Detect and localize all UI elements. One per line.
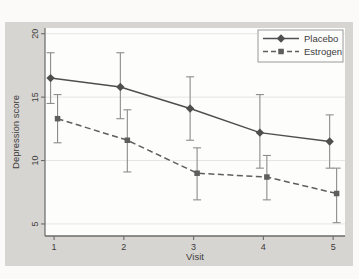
y-tick-label: 5 [30, 221, 40, 226]
legend: PlaceboEstrogen [258, 30, 343, 62]
depression-chart-figure: 510152012345 Depression score Visit Plac… [5, 22, 353, 266]
x-tick-label: 1 [52, 242, 57, 252]
legend-label-placebo: Placebo [304, 33, 338, 44]
x-tick-label: 5 [331, 242, 336, 252]
x-tick-label: 4 [261, 242, 266, 252]
legend-marker-square-icon [278, 49, 284, 55]
legend-label-estrogen: Estrogen [304, 46, 342, 57]
data-point-estrogen [55, 116, 61, 122]
data-point-estrogen [334, 191, 340, 197]
x-tick-label: 2 [121, 242, 126, 252]
chart-svg: 510152012345 Depression score Visit Plac… [5, 22, 353, 266]
y-tick-label: 10 [30, 156, 40, 166]
page: 510152012345 Depression score Visit Plac… [0, 0, 359, 279]
data-point-estrogen [125, 137, 131, 143]
data-point-estrogen [264, 174, 270, 180]
y-tick-label: 15 [30, 92, 40, 102]
y-tick-label: 20 [30, 29, 40, 39]
y-axis-title: Depression score [10, 95, 21, 169]
x-axis-title: Visit [186, 251, 204, 262]
data-point-estrogen [194, 170, 200, 176]
